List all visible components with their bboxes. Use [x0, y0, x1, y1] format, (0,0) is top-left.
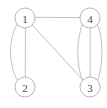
graph-figure: 1423	[0, 0, 107, 108]
node-label-4: 4	[87, 13, 93, 25]
graph-canvas: 1423	[0, 0, 107, 108]
node-label-2: 2	[22, 82, 28, 94]
graph-node-2[interactable]: 2	[15, 77, 35, 97]
graph-edge-1-2	[10, 25, 17, 81]
graph-edge-1-3	[33, 25, 83, 79]
graph-edge-4-3	[78, 24, 83, 81]
graph-node-4[interactable]: 4	[80, 8, 100, 28]
node-label-1: 1	[22, 13, 28, 25]
graph-node-1[interactable]: 1	[15, 8, 35, 28]
graph-edge-4-3	[98, 24, 103, 81]
graph-node-3[interactable]: 3	[80, 77, 100, 97]
node-label-3: 3	[87, 82, 93, 94]
